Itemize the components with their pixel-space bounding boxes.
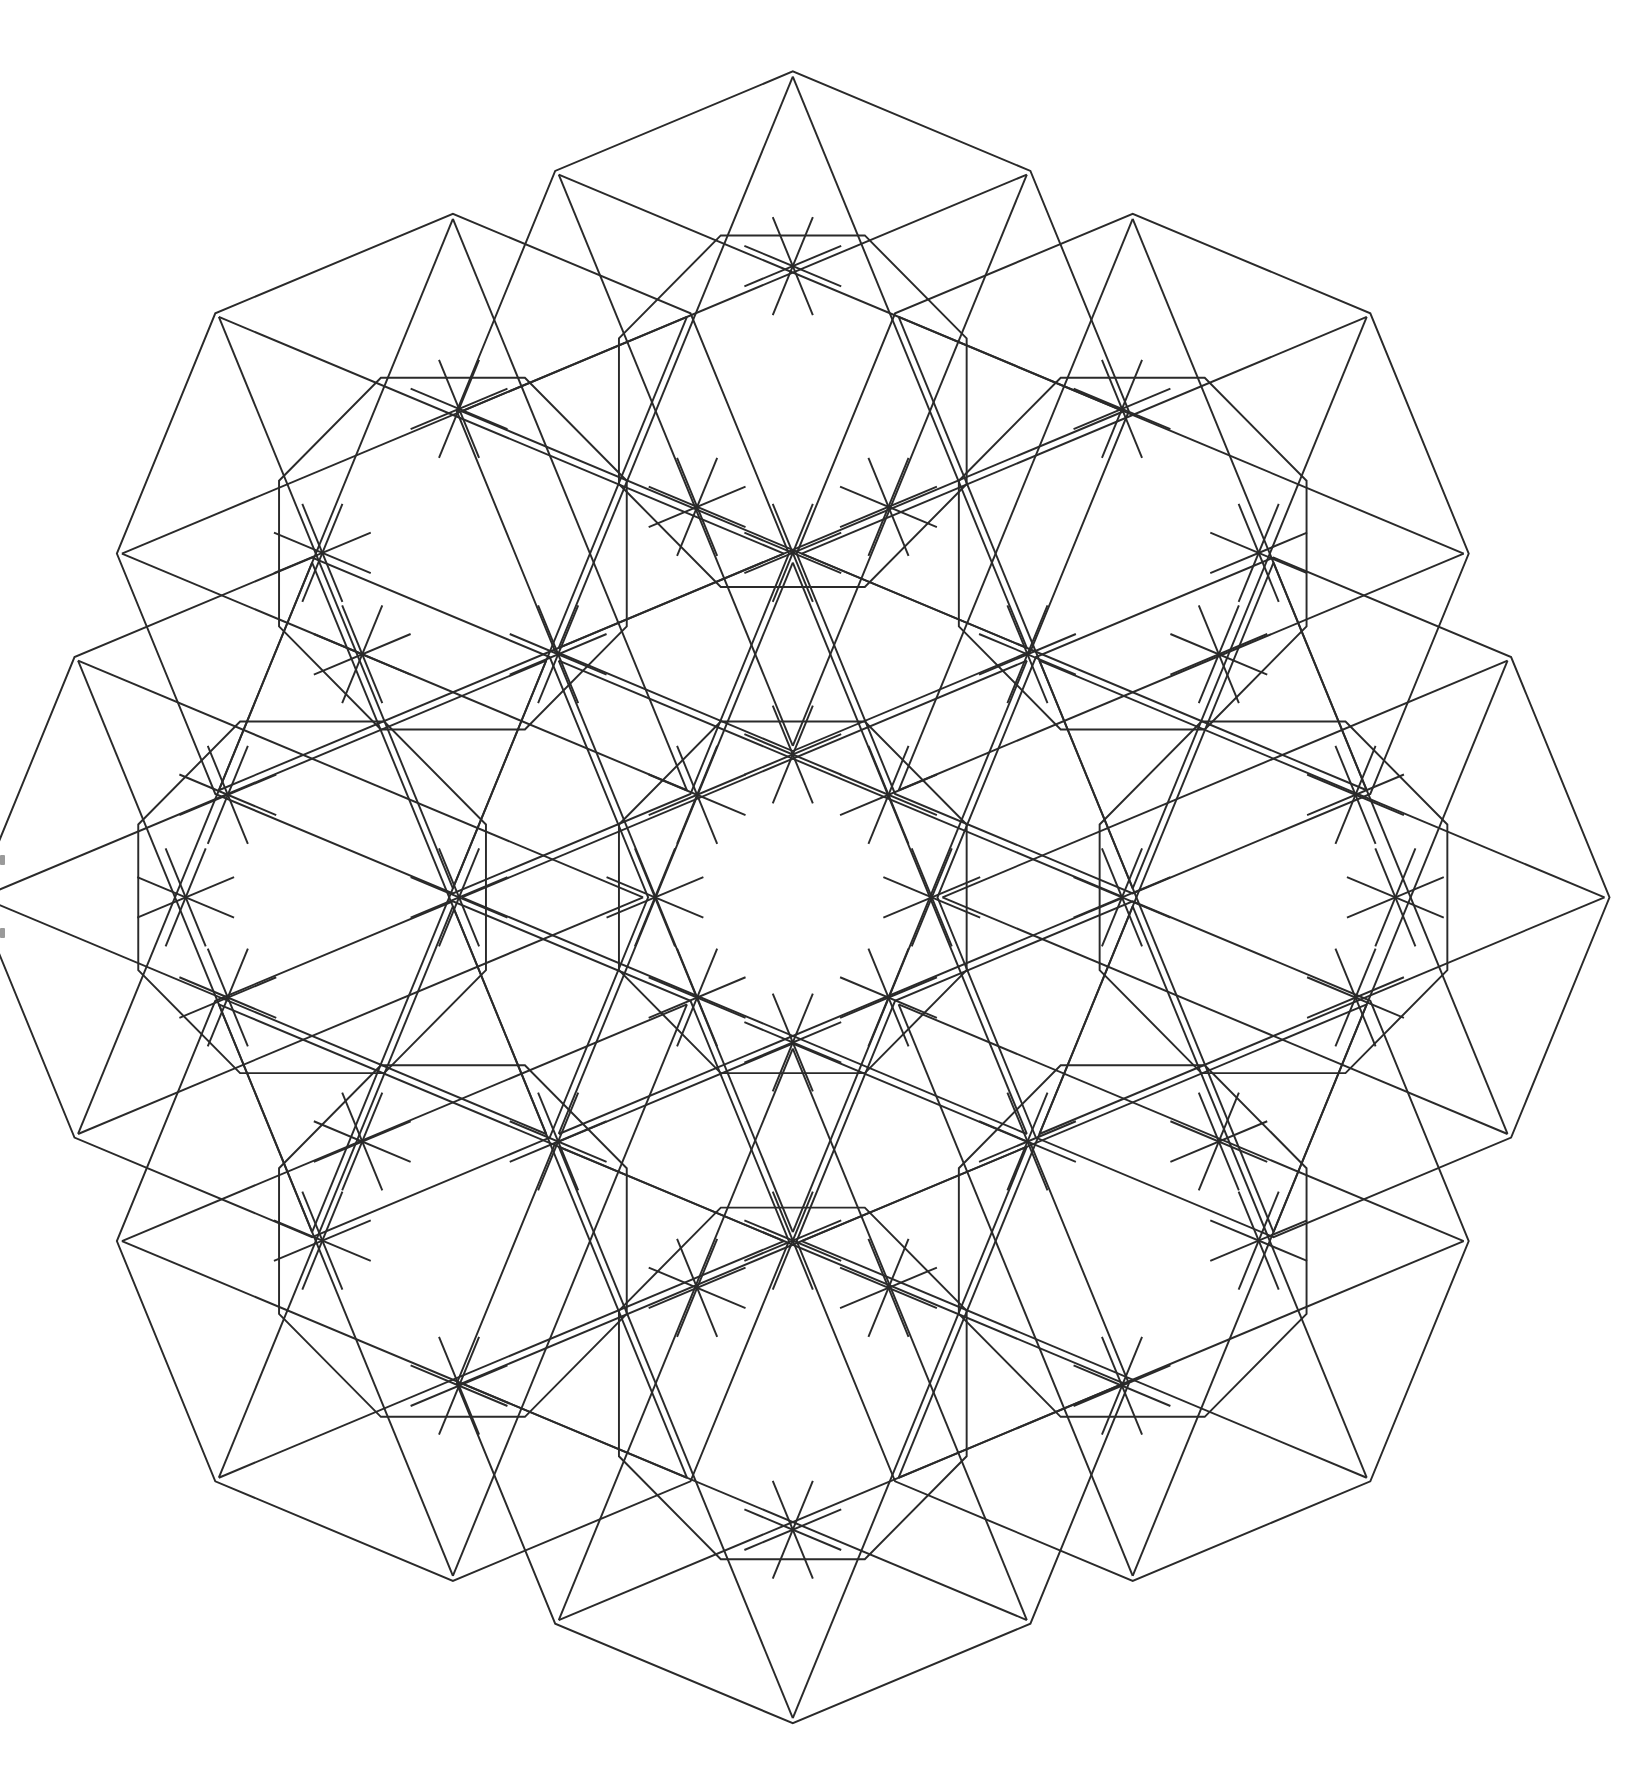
star-line bbox=[793, 563, 1027, 1134]
star-line bbox=[793, 661, 1027, 1232]
inner-petal-octagon bbox=[138, 722, 486, 1074]
inner-petal-octagon bbox=[279, 1065, 627, 1417]
star-line bbox=[462, 897, 1027, 1134]
star-line bbox=[899, 906, 1133, 1477]
inner-petal-octagon bbox=[619, 235, 967, 587]
star-line bbox=[1133, 1004, 1367, 1575]
pattern-canvas: Geometric 8-fold star lattice coloring p… bbox=[0, 0, 1638, 1767]
inner-petal-octagon bbox=[959, 1065, 1307, 1417]
star-line bbox=[802, 1004, 1367, 1241]
star-line bbox=[793, 77, 1027, 648]
star-line bbox=[559, 897, 1124, 1134]
inner-petal-octagon bbox=[959, 378, 1307, 730]
scan-speck bbox=[0, 855, 5, 865]
scan-speck bbox=[0, 928, 5, 938]
star-line bbox=[559, 563, 793, 1134]
outer-octagon-layer bbox=[0, 71, 1610, 1723]
geometric-star-pattern: Geometric 8-fold star lattice coloring p… bbox=[0, 0, 1638, 1767]
inner-petal-octagon bbox=[619, 722, 967, 1074]
star-line bbox=[559, 661, 793, 1232]
star-line bbox=[122, 317, 687, 554]
inner-petal-octagon bbox=[619, 1208, 967, 1560]
inner-petal-layer bbox=[138, 235, 1447, 1559]
star-line bbox=[559, 661, 1124, 898]
inner-petal-octagon bbox=[279, 378, 627, 730]
star-line bbox=[559, 1147, 793, 1718]
outer-octagon bbox=[0, 558, 648, 1238]
star-line bbox=[462, 661, 1027, 898]
star-line bbox=[899, 1241, 1464, 1478]
star-line bbox=[1133, 219, 1367, 790]
star-line-layer bbox=[0, 77, 1604, 1719]
star-line bbox=[219, 1004, 453, 1575]
